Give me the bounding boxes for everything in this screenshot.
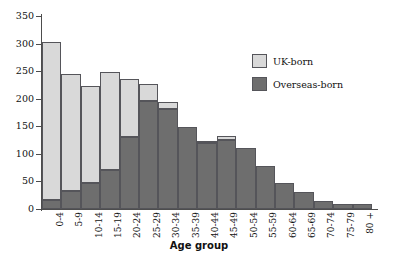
bar-column	[275, 16, 294, 209]
y-axis-tick	[36, 181, 41, 182]
bar-segment-uk-born	[197, 141, 216, 143]
bar-segment-uk-born	[81, 86, 100, 183]
legend-label-uk-born: UK-born	[273, 56, 313, 67]
bar-segment-uk-born	[42, 42, 61, 200]
bar-column	[42, 16, 61, 209]
bar-column	[294, 16, 313, 209]
y-axis-tick	[36, 209, 41, 210]
bar-segment-uk-born	[217, 136, 236, 140]
bar-segment-overseas-born	[139, 101, 158, 209]
y-axis-tick	[36, 99, 41, 100]
bar-column	[314, 16, 333, 209]
bar-column	[120, 16, 139, 209]
caption-fragment	[0, 253, 398, 260]
legend-item-overseas-born: Overseas-born	[252, 77, 343, 91]
plot-area	[42, 16, 372, 209]
y-axis-tick	[36, 154, 41, 155]
legend-label-overseas-born: Overseas-born	[273, 79, 343, 90]
bar-column	[158, 16, 177, 209]
y-axis-tick-label: 0	[2, 204, 34, 214]
bar-segment-uk-born	[100, 72, 119, 170]
bar-column	[256, 16, 275, 209]
bar-column	[197, 16, 216, 209]
y-axis-tick-label: 100	[2, 149, 34, 159]
bar-column	[61, 16, 80, 209]
bar-chart: 050100150200250300350 0-45-910-1415-1920…	[0, 0, 398, 260]
bar-segment-overseas-born	[197, 143, 216, 209]
bar-segment-uk-born	[139, 84, 158, 101]
bar-segment-overseas-born	[120, 137, 139, 209]
bar-segment-overseas-born	[294, 192, 313, 209]
bar-segment-overseas-born	[275, 183, 294, 209]
bar-column	[81, 16, 100, 209]
x-axis-line	[41, 209, 378, 210]
legend-swatch-uk-born-icon	[252, 54, 267, 68]
bar-segment-uk-born	[120, 79, 139, 137]
bar-segment-uk-born	[61, 74, 80, 191]
y-axis-tick-label: 350	[2, 11, 34, 21]
bar-segment-overseas-born	[61, 191, 80, 209]
bar-segment-overseas-born	[217, 140, 236, 209]
y-axis-tick-label: 250	[2, 66, 34, 76]
bar-column	[353, 16, 372, 209]
bar-segment-overseas-born	[100, 170, 119, 209]
legend-item-uk-born: UK-born	[252, 54, 343, 68]
bar-column	[217, 16, 236, 209]
bar-segment-overseas-born	[256, 166, 275, 209]
y-axis-tick	[36, 44, 41, 45]
y-axis-tick	[36, 71, 41, 72]
y-axis-tick-label: 200	[2, 94, 34, 104]
y-axis-tick	[36, 126, 41, 127]
bar-segment-uk-born	[158, 102, 177, 109]
bar-segment-overseas-born	[81, 183, 100, 209]
bar-column	[333, 16, 352, 209]
legend-swatch-overseas-born-icon	[252, 77, 267, 91]
bar-segment-overseas-born	[236, 148, 255, 209]
bar-segment-overseas-born	[353, 204, 372, 210]
y-axis-tick	[36, 16, 41, 17]
bar-segment-overseas-born	[333, 204, 352, 209]
bar-column	[236, 16, 255, 209]
bar-column	[100, 16, 119, 209]
bar-segment-overseas-born	[178, 127, 197, 209]
bar-segment-overseas-born	[42, 200, 61, 209]
bar-segment-overseas-born	[314, 201, 333, 209]
bar-segment-overseas-born	[158, 109, 177, 209]
legend: UK-born Overseas-born	[252, 54, 343, 100]
y-axis-tick-label: 300	[2, 39, 34, 49]
y-axis-tick-label: 150	[2, 121, 34, 131]
x-axis-title: Age group	[0, 240, 398, 251]
y-axis-tick-label: 50	[2, 176, 34, 186]
bar-column	[178, 16, 197, 209]
bar-column	[139, 16, 158, 209]
